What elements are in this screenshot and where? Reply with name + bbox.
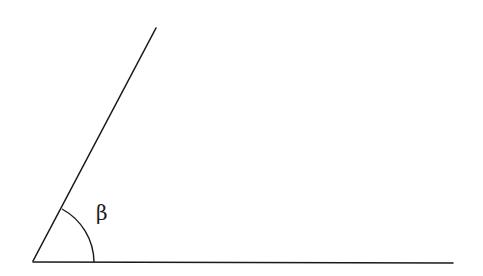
angle-arc	[62, 209, 94, 262]
angle-label: β	[96, 201, 108, 225]
ray-slanted	[33, 28, 156, 261]
ray-horizontal	[33, 262, 453, 263]
angle-diagram: β	[0, 0, 483, 276]
